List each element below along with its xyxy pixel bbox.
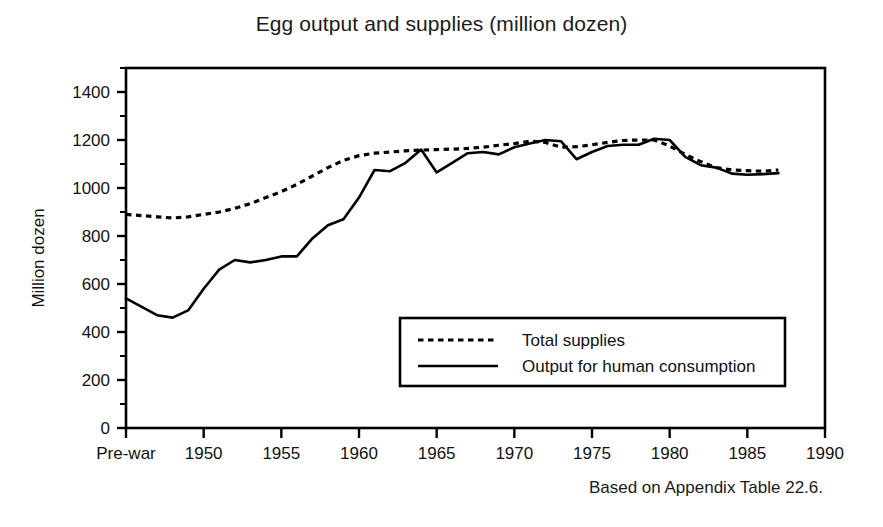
legend-label-2: Output for human consumption	[522, 357, 755, 376]
x-axis-tick-label: 1960	[340, 444, 378, 463]
y-axis-tick-label: 1200	[72, 131, 110, 150]
x-axis-tick-label: 1970	[495, 444, 533, 463]
x-axis-tick-label: Pre-war	[96, 444, 156, 463]
y-axis-tick-label: 800	[82, 227, 110, 246]
source-note: Based on Appendix Table 22.6.	[589, 478, 823, 498]
x-axis-tick-label: 1965	[418, 444, 456, 463]
y-axis-tick-label: 1400	[72, 83, 110, 102]
y-axis-tick-label: 200	[82, 371, 110, 390]
chart-figure: Egg output and supplies (million dozen) …	[0, 0, 883, 527]
x-axis-tick-label: 1980	[651, 444, 689, 463]
x-axis-tick-label: 1985	[728, 444, 766, 463]
x-axis-tick-label: 1950	[185, 444, 223, 463]
legend-label-1: Total supplies	[522, 331, 625, 350]
series-line-2	[126, 139, 778, 318]
chart-plot-area: 0200400600800100012001400Million dozenPr…	[0, 0, 883, 527]
y-axis-tick-label: 0	[101, 419, 110, 438]
y-axis-tick-label: 1000	[72, 179, 110, 198]
y-axis-title: Million dozen	[29, 208, 48, 307]
y-axis-tick-label: 400	[82, 323, 110, 342]
y-axis-tick-label: 600	[82, 275, 110, 294]
x-axis-tick-label: 1955	[262, 444, 300, 463]
x-axis-tick-label: 1990	[806, 444, 844, 463]
x-axis-tick-label: 1975	[573, 444, 611, 463]
